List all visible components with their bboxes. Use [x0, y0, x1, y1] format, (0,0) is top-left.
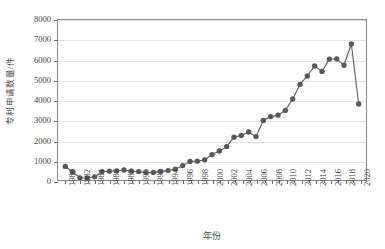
x-tick-label: 1984: [97, 169, 106, 186]
x-tick-label: 2018: [348, 169, 357, 186]
y-tick-label: 7000: [34, 35, 51, 44]
y-tick-mark: [54, 40, 58, 41]
x-tick-label: 1988: [127, 169, 136, 186]
x-tick-label: 1994: [171, 169, 180, 186]
y-tick-mark: [54, 182, 58, 183]
x-tick-label: 2016: [334, 169, 343, 186]
data-point: [341, 63, 346, 68]
y-tick-mark: [54, 61, 58, 62]
data-point: [224, 144, 229, 149]
x-tick-mark: [213, 180, 214, 184]
data-point: [334, 56, 339, 61]
y-tick-mark: [54, 101, 58, 102]
x-tick-label: 2006: [260, 169, 269, 186]
y-tick-label: 5000: [34, 75, 51, 84]
x-tick-label: 1992: [156, 169, 165, 186]
data-point: [327, 57, 332, 62]
series-line-chart: [58, 20, 366, 180]
y-tick-mark: [54, 20, 58, 21]
data-point: [246, 129, 251, 134]
y-tick-label: 8000: [34, 15, 51, 24]
y-tick-label: 4000: [34, 96, 51, 105]
x-tick-mark: [331, 180, 332, 184]
x-axis-title: 年份: [57, 229, 367, 242]
data-point: [356, 101, 361, 106]
data-point: [312, 63, 317, 68]
data-point: [319, 69, 324, 74]
data-point: [253, 134, 258, 139]
data-point: [297, 82, 302, 87]
data-point: [305, 73, 310, 78]
data-point: [261, 118, 266, 123]
y-axis-title-text: 专利申请数量/件: [3, 57, 15, 125]
x-tick-label: 2000: [216, 169, 225, 186]
x-tick-label: 1998: [201, 169, 210, 186]
data-point: [239, 133, 244, 138]
x-tick-label: 2008: [275, 169, 284, 186]
data-point: [180, 163, 185, 168]
x-tick-label: 2004: [245, 169, 254, 186]
y-tick-label: 3000: [34, 116, 51, 125]
data-point: [202, 157, 207, 162]
x-tick-label: 1986: [112, 169, 121, 186]
x-tick-label: 1996: [186, 169, 195, 186]
y-tick-mark: [54, 142, 58, 143]
data-point: [275, 113, 280, 118]
y-axis-tick-labels: 010002000300040005000600070008000: [16, 0, 54, 249]
x-tick-label: 1980: [68, 169, 77, 186]
y-tick-mark: [54, 81, 58, 82]
x-tick-mark: [80, 180, 81, 184]
y-tick-label: 6000: [34, 55, 51, 64]
x-tick-mark: [272, 180, 273, 184]
x-tick-label: 2020: [363, 169, 372, 186]
data-point: [268, 114, 273, 119]
data-point: [283, 108, 288, 113]
y-tick-label: 1000: [34, 156, 51, 165]
chart-figure: 专利申请数量/件 0100020003000400050006000700080…: [0, 0, 385, 249]
data-point: [290, 96, 295, 101]
plot-area: [57, 19, 367, 181]
x-tick-label: 2010: [289, 169, 298, 186]
x-tick-label: 2002: [230, 169, 239, 186]
x-tick-label: 2012: [304, 169, 313, 186]
data-point: [195, 159, 200, 164]
x-tick-label: 1982: [83, 169, 92, 186]
x-tick-label: 2014: [319, 169, 328, 186]
y-tick-label: 2000: [34, 136, 51, 145]
data-point: [209, 152, 214, 157]
data-point: [231, 135, 236, 140]
data-point: [217, 148, 222, 153]
data-point: [187, 159, 192, 164]
x-axis-tick-labels: 1980198219841986198819901992199419961998…: [57, 186, 367, 232]
data-point: [349, 41, 354, 46]
series-markers: [63, 41, 362, 180]
y-tick-mark: [54, 162, 58, 163]
x-tick-label: 1990: [142, 169, 151, 186]
y-tick-label: 0: [47, 177, 51, 186]
y-tick-mark: [54, 121, 58, 122]
